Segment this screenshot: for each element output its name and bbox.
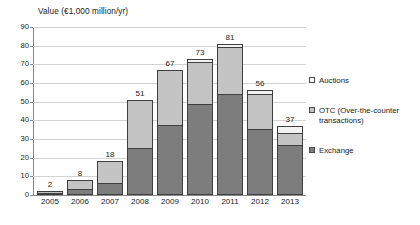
x-tick-label-2005: 2005 bbox=[37, 197, 63, 206]
bar-group: 2818516773815637 bbox=[33, 27, 306, 195]
legend-item-otc[interactable]: OTC (Over-the-counter transactions) bbox=[309, 106, 417, 127]
x-tick-label-2009: 2009 bbox=[157, 197, 183, 206]
x-tick-label-2012: 2012 bbox=[247, 197, 273, 206]
bar-segment-exchange[interactable] bbox=[97, 183, 123, 195]
bar-2008[interactable]: 51 bbox=[127, 27, 153, 195]
y-tick-label: 20 bbox=[21, 154, 29, 162]
y-tick-label: 60 bbox=[21, 79, 29, 87]
bar-2013[interactable]: 37 bbox=[277, 27, 303, 195]
bar-value-label: 81 bbox=[217, 34, 243, 42]
bar-segment-exchange[interactable] bbox=[157, 125, 183, 195]
y-tick-label: 30 bbox=[21, 135, 29, 143]
x-tick-label-2013: 2013 bbox=[277, 197, 303, 206]
legend-label: Auctions bbox=[319, 76, 349, 87]
bar-value-label: 8 bbox=[67, 170, 93, 178]
bar-value-label: 37 bbox=[277, 116, 303, 124]
legend-item-auctions[interactable]: Auctions bbox=[309, 76, 417, 87]
bar-segment-exchange[interactable] bbox=[247, 129, 273, 195]
x-tick-label-2010: 2010 bbox=[187, 197, 213, 206]
legend-label: Exchange bbox=[319, 146, 354, 157]
bar-segment-auctions[interactable] bbox=[277, 126, 303, 133]
legend-label: OTC (Over-the-counter transactions) bbox=[319, 106, 417, 127]
bar-segment-otc[interactable] bbox=[217, 47, 243, 95]
bar-value-label: 18 bbox=[97, 151, 123, 159]
bar-segment-otc[interactable] bbox=[187, 62, 213, 103]
x-tick-label-2006: 2006 bbox=[67, 197, 93, 206]
y-tick-label: 0 bbox=[25, 191, 29, 199]
bar-segment-exchange[interactable] bbox=[37, 193, 63, 195]
legend-swatch-otc-icon bbox=[309, 107, 315, 113]
bar-value-label: 2 bbox=[37, 181, 63, 189]
legend-item-exchange[interactable]: Exchange bbox=[309, 146, 417, 157]
x-tick-label-2008: 2008 bbox=[127, 197, 153, 206]
bar-value-label: 51 bbox=[127, 90, 153, 98]
x-tick-label-2007: 2007 bbox=[97, 197, 123, 206]
bar-segment-otc[interactable] bbox=[97, 161, 123, 182]
y-tick-label: 10 bbox=[21, 173, 29, 181]
bar-segment-exchange[interactable] bbox=[217, 94, 243, 195]
y-axis-title: Value (€1,000 million/yr) bbox=[38, 7, 128, 16]
bar-value-label: 67 bbox=[157, 60, 183, 68]
y-tick-label: 40 bbox=[21, 117, 29, 125]
bar-segment-exchange[interactable] bbox=[277, 145, 303, 195]
bar-2007[interactable]: 18 bbox=[97, 27, 123, 195]
x-tick-label-2011: 2011 bbox=[217, 197, 243, 206]
plot-area: 0102030405060708090 2818516773815637 bbox=[33, 27, 306, 195]
bar-2011[interactable]: 81 bbox=[217, 27, 243, 195]
y-tick-label: 50 bbox=[21, 98, 29, 106]
bar-value-label: 73 bbox=[187, 49, 213, 57]
bar-2006[interactable]: 8 bbox=[67, 27, 93, 195]
bar-2009[interactable]: 67 bbox=[157, 27, 183, 195]
chart-legend: AuctionsOTC (Over-the-counter transactio… bbox=[309, 76, 417, 156]
stacked-bar-chart: Value (€1,000 million/yr) 01020304050607… bbox=[0, 0, 420, 225]
y-tick-label: 90 bbox=[21, 23, 29, 31]
y-tick-label: 80 bbox=[21, 42, 29, 50]
bar-segment-otc[interactable] bbox=[157, 70, 183, 125]
bar-value-label: 56 bbox=[247, 80, 273, 88]
bar-segment-otc[interactable] bbox=[67, 180, 93, 189]
bar-segment-exchange[interactable] bbox=[127, 148, 153, 195]
legend-swatch-auctions-icon bbox=[309, 77, 315, 83]
bar-segment-exchange[interactable] bbox=[67, 189, 93, 195]
x-axis-labels: 200520062007200820092010201120122013 bbox=[33, 197, 306, 206]
bar-2005[interactable]: 2 bbox=[37, 27, 63, 195]
gridline-0 bbox=[33, 195, 306, 196]
bar-segment-otc[interactable] bbox=[247, 94, 273, 129]
bar-segment-otc[interactable] bbox=[277, 133, 303, 144]
bar-segment-otc[interactable] bbox=[127, 100, 153, 149]
bar-segment-exchange[interactable] bbox=[187, 104, 213, 195]
bar-2010[interactable]: 73 bbox=[187, 27, 213, 195]
y-tickmark-0 bbox=[30, 195, 33, 196]
bar-2012[interactable]: 56 bbox=[247, 27, 273, 195]
legend-swatch-exchange-icon bbox=[309, 147, 315, 153]
y-tick-label: 70 bbox=[21, 61, 29, 69]
